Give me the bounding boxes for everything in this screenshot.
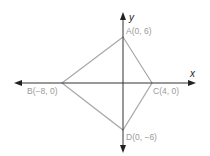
y-axis-label: y [129,13,134,23]
x-axis-right-arrow-icon [188,80,196,86]
point-c-label: C(4, 0) [153,87,179,96]
coordinate-plane [0,0,210,156]
x-axis-left-arrow-icon [14,80,22,86]
point-b-label: B(−8, 0) [27,87,57,96]
y-axis-up-arrow-icon [120,12,126,20]
y-axis-down-arrow-icon [120,145,126,153]
point-d-label: D(0, −6) [126,133,157,142]
point-a-label: A(0, 6) [126,27,152,36]
x-axis-label: x [190,69,195,79]
